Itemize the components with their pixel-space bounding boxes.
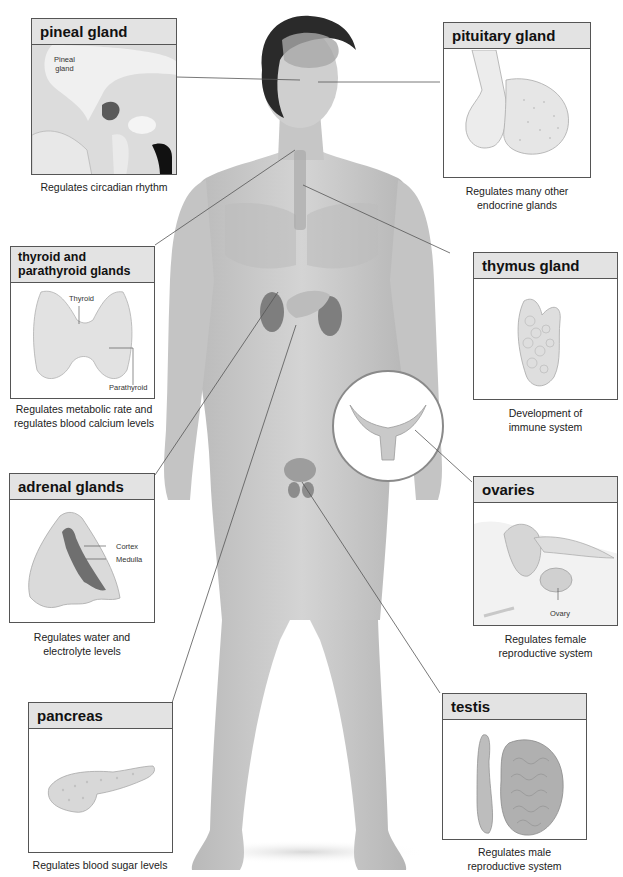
pituitary-illustration <box>444 50 590 177</box>
panel-title: thyroid and parathyroid glands <box>11 247 154 283</box>
testis-caption: Regulates male reproductive system <box>442 845 587 873</box>
thymus-gland-panel: thymus gland <box>473 252 618 400</box>
panel-title: pancreas <box>29 703 172 729</box>
thymus-illustration <box>474 281 617 399</box>
pituitary-gland-panel: pituitary gland <box>443 22 591 178</box>
thymus-caption: Development of immune system <box>473 406 618 434</box>
panel-title: adrenal glands <box>10 474 154 500</box>
thyroid-parathyroid-panel: thyroid and parathyroid glands Thyroid P… <box>10 246 155 399</box>
panel-title: testis <box>443 694 586 720</box>
pancreas-panel: pancreas <box>28 702 173 853</box>
panel-title: pineal gland <box>32 19 176 45</box>
testis-panel: testis <box>442 693 587 840</box>
thyroid-caption: Regulates metabolic rate and regulates b… <box>4 402 164 430</box>
panel-title: pituitary gland <box>444 23 590 49</box>
adrenal-glands-panel: adrenal glands Cortex Medulla <box>9 473 155 623</box>
endocrine-diagram: pineal gland Pineal gland Regulates circ… <box>0 0 623 877</box>
pancreas-illustration <box>29 730 172 852</box>
sublabel-thyroid: Thyroid <box>69 294 94 303</box>
sublabel-parathyroid: Parathyroid <box>109 383 147 392</box>
adrenal-caption: Regulates water and electrolyte levels <box>9 630 155 658</box>
sublabel-cortex: Cortex <box>116 542 138 551</box>
ovaries-panel: ovaries Ovary <box>473 476 618 626</box>
panel-title: ovaries <box>474 477 617 503</box>
pineal-gland-panel: pineal gland Pineal gland <box>31 18 177 175</box>
pineal-caption: Regulates circadian rhythm <box>31 180 177 194</box>
ovaries-illustration <box>474 504 617 625</box>
sublabel-ovary: Ovary <box>550 609 570 618</box>
panel-title: thymus gland <box>474 253 617 279</box>
testis-illustration <box>443 721 586 839</box>
pancreas-caption: Regulates blood sugar levels <box>20 858 180 872</box>
sublabel-pineal-gland: Pineal gland <box>54 55 75 73</box>
pituitary-caption: Regulates many other endocrine glands <box>443 184 591 212</box>
ovaries-caption: Regulates female reproductive system <box>473 632 618 660</box>
sublabel-medulla: Medulla <box>116 555 142 564</box>
